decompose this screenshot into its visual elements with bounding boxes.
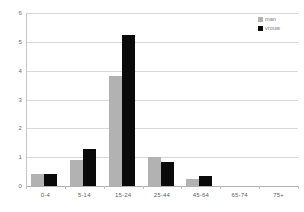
bar-chart: 6 5 4 3 2 1 0 man vrouw 0-45-1415-2425-4…: [0, 0, 304, 212]
x-axis-label-45-64: 45-64: [181, 192, 221, 199]
bar-vrouw-0-4: [44, 174, 57, 186]
legend-label-vrouw: vrouw: [265, 25, 280, 31]
y-tick-label-3: 3: [2, 97, 22, 103]
y-tick-label-0: 0: [2, 183, 22, 189]
x-axis-label-75+: 75+: [259, 192, 299, 199]
x-tick: [298, 186, 299, 189]
bar-group: [220, 13, 259, 186]
x-tick: [26, 186, 27, 189]
bar-group: [26, 13, 65, 186]
bar-group: [65, 13, 104, 186]
legend-label-man: man: [265, 16, 276, 22]
legend-item-vrouw[interactable]: vrouw: [258, 24, 302, 32]
bars-layer: [26, 13, 298, 186]
legend-item-man[interactable]: man: [258, 15, 302, 23]
x-axis-label-15-24: 15-24: [103, 192, 143, 199]
y-tick-label-2: 2: [2, 125, 22, 131]
bar-vrouw-45-64: [199, 176, 212, 186]
bar-man-15-24: [109, 76, 122, 186]
x-tick: [220, 186, 221, 189]
x-tick: [259, 186, 260, 189]
x-axis-label-65-74: 65-74: [220, 192, 260, 199]
x-axis-label-0-4: 0-4: [25, 192, 65, 199]
y-tick-label-1: 1: [2, 154, 22, 160]
bar-man-25-44: [148, 157, 161, 186]
x-tick: [65, 186, 66, 189]
x-axis-label-25-44: 25-44: [142, 192, 182, 199]
legend-swatch-vrouw-icon: [258, 26, 263, 31]
x-tick: [104, 186, 105, 189]
bar-vrouw-25-44: [161, 162, 174, 187]
bar-man-45-64: [186, 179, 199, 186]
legend-swatch-man-icon: [258, 17, 263, 22]
y-tick-label-5: 5: [2, 39, 22, 45]
bar-man-5-14: [70, 160, 83, 186]
bar-group: [143, 13, 182, 186]
y-tick-label-4: 4: [2, 68, 22, 74]
bar-man-0-4: [31, 174, 44, 186]
bar-group: [181, 13, 220, 186]
bar-vrouw-5-14: [83, 149, 96, 186]
bar-group: [104, 13, 143, 186]
x-tick: [181, 186, 182, 189]
chart-legend: man vrouw: [258, 15, 302, 33]
bar-group: [259, 13, 298, 186]
x-tick: [143, 186, 144, 189]
bar-vrouw-15-24: [122, 35, 135, 186]
y-tick-label-6: 6: [2, 10, 22, 16]
x-axis-label-5-14: 5-14: [64, 192, 104, 199]
x-axis-ticks: [26, 186, 298, 190]
